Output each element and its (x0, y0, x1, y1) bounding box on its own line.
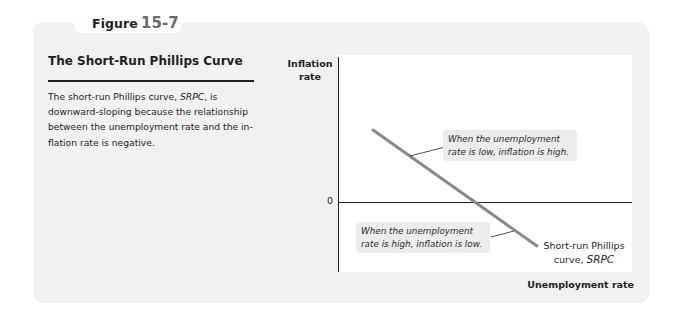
y-axis-label-line2: rate (285, 70, 335, 83)
callout-high-leader (410, 147, 445, 156)
callout-low-line2: rate is high, inflation is low. (361, 238, 485, 251)
y-axis-label: Inflation rate (285, 57, 335, 83)
callout-low-leader (491, 231, 514, 237)
callout-low-line1: When the unemployment (361, 225, 485, 238)
callout-high-line2: rate is low, inflation is high. (448, 146, 572, 159)
callout-high-unemployment: When the unemployment rate is high, infl… (356, 222, 490, 253)
srpc-label-line2: curve, SRPC (538, 253, 630, 267)
srpc-label-line1: Short-run Phillips (538, 240, 630, 253)
callout-low-unemployment: When the unemployment rate is low, infla… (443, 130, 577, 161)
srpc-label-prefix: curve, (554, 254, 587, 265)
srpc-label-abbrev: SRPC (587, 253, 615, 265)
x-axis-label: Unemployment rate (510, 279, 634, 290)
y-tick-zero: 0 (327, 195, 333, 206)
y-axis-label-line1: Inflation (285, 57, 335, 70)
srpc-label: Short-run Phillips curve, SRPC (538, 240, 630, 266)
callout-high-line1: When the unemployment (448, 133, 572, 146)
